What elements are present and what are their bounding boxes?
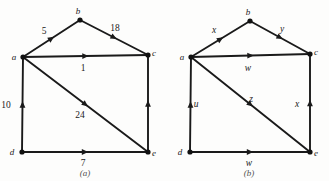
vertex-dot <box>307 149 312 154</box>
vertex-label: e <box>314 148 318 158</box>
vertex-label: c <box>152 48 156 58</box>
edge-d-to-e: w <box>190 149 310 168</box>
edge-b-to-c: y <box>250 21 310 54</box>
vertex-label: d <box>178 147 183 157</box>
vertex-label: b <box>76 6 81 16</box>
directed-graph-b: xywuzwxabcde(b) <box>164 0 329 181</box>
edge-weight-label: w <box>245 63 252 73</box>
vertex-e[interactable]: e <box>307 148 318 158</box>
panel-caption: (b) <box>244 168 255 178</box>
edge-arrowhead-icon <box>82 53 88 59</box>
vertex-label: e <box>152 148 156 158</box>
edge-arrowhead-icon <box>247 149 253 155</box>
edge-a-to-c: 1 <box>23 53 148 73</box>
edge-weight-label: u <box>194 99 199 109</box>
edge-arrowhead-icon <box>145 100 151 106</box>
edge-weight-label: x <box>294 99 300 109</box>
edge-e-to-c <box>145 55 151 152</box>
edge-e-to-c: x <box>294 54 313 152</box>
vertex-dot <box>145 52 150 57</box>
edge-d-to-e: 7 <box>22 149 148 168</box>
vertex-label: a <box>180 52 185 62</box>
edge-weight-label: 18 <box>110 23 120 33</box>
edge-a-to-b: x <box>191 21 250 57</box>
vertex-dot <box>247 18 252 23</box>
edge-d-to-a: u <box>188 57 199 152</box>
vertex-label: c <box>314 47 318 57</box>
vertex-dot <box>77 17 82 22</box>
edge-weight-label: y <box>279 24 285 34</box>
directed-graph-a: 518110247abcde(a) <box>0 0 165 181</box>
edge-weight-label: x <box>211 25 217 35</box>
vertex-c[interactable]: c <box>145 48 156 58</box>
vertex-label: b <box>246 7 251 17</box>
vertex-dot <box>188 54 193 59</box>
edge-arrowhead-icon <box>188 101 194 107</box>
edge-weight-label: 5 <box>42 26 47 36</box>
panel-caption: (a) <box>80 168 91 178</box>
vertex-label: d <box>10 147 15 157</box>
vertex-dot <box>145 149 150 154</box>
edge-weight-label: z <box>248 94 253 104</box>
edge-arrowhead-icon <box>307 100 313 106</box>
edge-a-to-b: 5 <box>23 20 80 57</box>
figure-container: 518110247abcde(a) xywuzwxabcde(b) <box>0 0 329 181</box>
vertex-b[interactable]: b <box>76 6 83 23</box>
vertex-e[interactable]: e <box>145 148 156 158</box>
vertex-c[interactable]: c <box>307 47 318 57</box>
vertex-dot <box>19 149 24 154</box>
edge-arrowhead-icon <box>247 53 253 59</box>
edge-a-to-e: 24 <box>23 57 148 152</box>
edge-b-to-c: 18 <box>80 20 148 55</box>
edge-weight-label: 7 <box>81 158 86 168</box>
edge-arrowhead-icon <box>82 149 88 155</box>
vertex-dot <box>187 149 192 154</box>
vertex-dot <box>20 54 25 59</box>
edge-weight-label: 24 <box>75 110 85 120</box>
edge-weight-label: 1 <box>81 63 86 73</box>
edge-d-to-a: 10 <box>1 57 25 152</box>
edge-a-to-c: w <box>191 53 310 73</box>
vertex-b[interactable]: b <box>246 7 253 24</box>
vertex-label: a <box>12 52 17 62</box>
edge-weight-label: w <box>246 158 253 168</box>
edge-arrowhead-icon <box>20 101 26 107</box>
edge-weight-label: 10 <box>1 100 11 110</box>
vertex-dot <box>307 51 312 56</box>
